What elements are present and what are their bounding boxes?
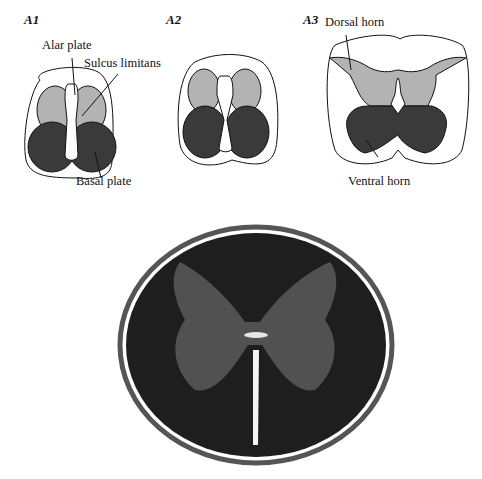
figure-canvas [0,0,482,479]
panel-a2-diagram [178,55,278,166]
panel-label-a1: A1 [24,12,39,28]
spinal-cord-micrograph [120,227,392,463]
label-sulcus-limitans: Sulcus limitans [84,56,161,71]
panel-label-a2: A2 [166,12,181,28]
panel-a3-diagram [327,35,469,164]
label-alar-plate: Alar plate [42,38,92,53]
panel-label-a3: A3 [303,12,318,28]
label-dorsal-horn: Dorsal horn [325,15,384,30]
neural-canal [65,84,78,160]
label-ventral-horn: Ventral horn [348,174,410,189]
label-basal-plate: Basal plate [76,174,131,189]
panel-a1-diagram [25,58,118,178]
